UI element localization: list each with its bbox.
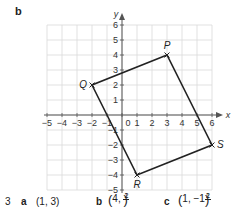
x-tick-label: −5 <box>42 118 52 128</box>
grid-lines <box>47 25 212 190</box>
fraction-denominator: 2 <box>123 192 129 199</box>
x-axis-label: x <box>225 110 231 120</box>
answer-c-y-whole: −1 <box>193 193 204 204</box>
answer-b-value: (4, 12) <box>108 192 128 207</box>
answer-a-value: (1, 3) <box>36 196 59 207</box>
y-tick-label: 3 <box>113 65 118 75</box>
x-tick-label: 3 <box>164 118 169 128</box>
vertex-label-q: Q <box>79 79 87 90</box>
vertex-label-s: S <box>217 139 224 150</box>
coordinate-grid: xy−5−4−3−2−10123456−5−4−3−2−1123456 PQRS <box>0 0 233 196</box>
tick-labels: xy−5−4−3−2−10123456−5−4−3−2−1123456 <box>42 9 231 195</box>
fraction-denominator: 2 <box>205 192 211 199</box>
y-axis-label: y <box>113 9 119 19</box>
vertex-label-p: P <box>164 40 171 51</box>
y-tick-label: 5 <box>113 35 118 45</box>
y-tick-label: 4 <box>113 50 118 60</box>
y-tick-label: −3 <box>108 155 118 165</box>
x-tick-label: −4 <box>57 118 67 128</box>
y-tick-label: 6 <box>113 20 118 30</box>
x-tick-label: 6 <box>209 118 214 128</box>
y-tick-label: 1 <box>113 95 118 105</box>
x-tick-label: 4 <box>179 118 184 128</box>
answer-c-value: (1, −112) <box>178 192 209 207</box>
x-tick-label: 2 <box>149 118 154 128</box>
y-tick-label: −4 <box>108 170 118 180</box>
answer-c-letter: c <box>164 196 170 207</box>
y-axis-arrow-icon <box>119 13 125 20</box>
x-tick-label: −2 <box>87 118 97 128</box>
answers-row: 3 a (1, 3) b (4, 12) c (1, −112) <box>0 196 233 216</box>
y-tick-label: 2 <box>113 80 118 90</box>
x-tick-label: −3 <box>72 118 82 128</box>
answer-a-letter: a <box>21 196 27 207</box>
answer-b-letter: b <box>96 196 102 207</box>
x-tick-label: 0 <box>125 118 130 128</box>
x-axis-arrow-icon <box>216 112 223 118</box>
question-number: 3 <box>5 196 11 207</box>
x-tick-label: 1 <box>134 118 139 128</box>
y-tick-label: −2 <box>108 140 118 150</box>
vertex-label-r: R <box>133 179 140 190</box>
